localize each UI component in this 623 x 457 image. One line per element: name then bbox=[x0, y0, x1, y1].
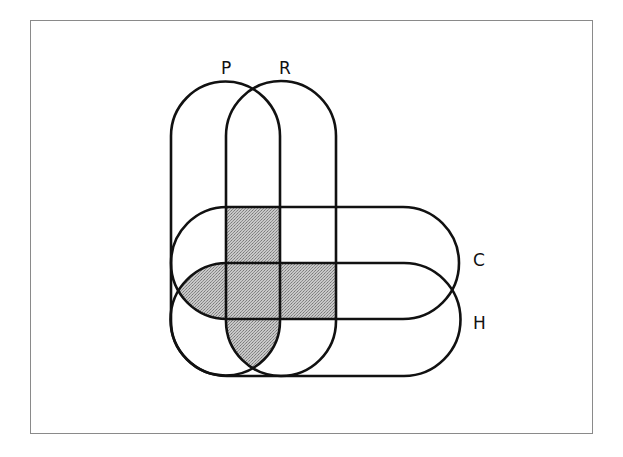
region-r-c-h bbox=[280, 263, 336, 319]
label-h: H bbox=[473, 313, 486, 333]
label-p: P bbox=[221, 58, 231, 78]
shaded-regions bbox=[160, 207, 336, 379]
label-c: C bbox=[473, 250, 485, 270]
label-r: R bbox=[279, 58, 291, 78]
venn-diagram: P R C H bbox=[0, 0, 623, 457]
